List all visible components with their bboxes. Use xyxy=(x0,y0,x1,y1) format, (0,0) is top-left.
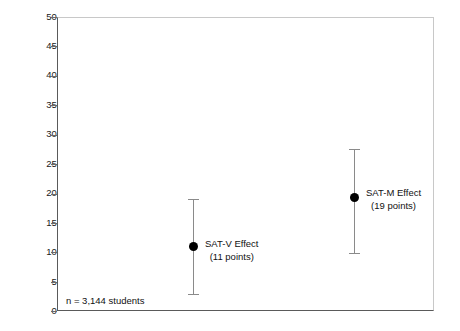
y-tick-label-40: 40 xyxy=(23,70,57,80)
errorbar-sat-v xyxy=(188,199,199,295)
y-tick-mark-0 xyxy=(51,311,57,312)
errorbar-cap-top-sat-m xyxy=(349,149,360,150)
errorbar-cap-top-sat-v xyxy=(188,199,199,200)
plot-area xyxy=(57,17,434,311)
series-label-sat-m-line1: SAT-M Effect xyxy=(366,187,421,200)
errorbar-cap-bottom-sat-v xyxy=(188,294,199,295)
y-tick-label-30: 30 xyxy=(23,129,57,139)
series-label-sat-m: SAT-M Effect (19 points) xyxy=(366,187,421,212)
errorbar-sat-m xyxy=(349,149,360,254)
series-label-sat-v-line1: SAT-V Effect xyxy=(205,238,259,251)
series-label-sat-m-line2: (19 points) xyxy=(366,200,421,213)
series-label-sat-v-line2: (11 points) xyxy=(205,251,259,264)
sample-size-note: n = 3,144 students xyxy=(66,295,144,306)
errorbar-cap-bottom-sat-m xyxy=(349,253,360,254)
series-label-sat-v: SAT-V Effect (11 points) xyxy=(205,238,259,263)
data-point-sat-v xyxy=(189,242,198,251)
chart-container: 50 45 40 35 30 25 20 15 10 5 0 SAT-V Eff… xyxy=(0,0,460,331)
y-tick-label-20: 20 xyxy=(23,188,57,198)
data-point-sat-m xyxy=(350,193,359,202)
